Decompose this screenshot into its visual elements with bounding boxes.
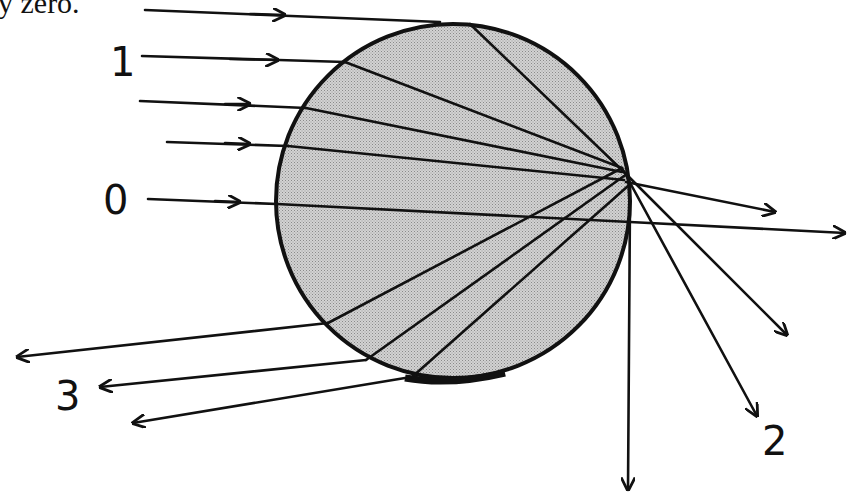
outgoing-ray-steep <box>624 172 787 335</box>
arrow-icon <box>225 143 250 144</box>
outgoing-ray-down <box>628 200 630 490</box>
incoming-ray-2nd <box>140 101 306 108</box>
label-ray-0: 0 <box>103 177 128 223</box>
arrow-icon <box>230 59 278 60</box>
arrow-icon <box>250 14 285 15</box>
arrow-icon <box>215 201 240 202</box>
droplet <box>276 24 630 381</box>
incoming-ray-top <box>145 10 440 22</box>
label-ray-3: 3 <box>55 373 80 419</box>
outgoing-ray-0 <box>630 222 845 233</box>
droplet-ray-diagram: 1 0 3 2 <box>0 0 853 494</box>
outgoing-rays <box>622 168 845 490</box>
label-ray-2: 2 <box>762 418 787 464</box>
exit-ray-lower <box>133 378 405 423</box>
label-ray-1: 1 <box>110 39 135 85</box>
incoming-ray-0 <box>148 199 277 204</box>
exit-ray-3 <box>100 360 366 387</box>
exit-ray-upper <box>17 323 328 357</box>
